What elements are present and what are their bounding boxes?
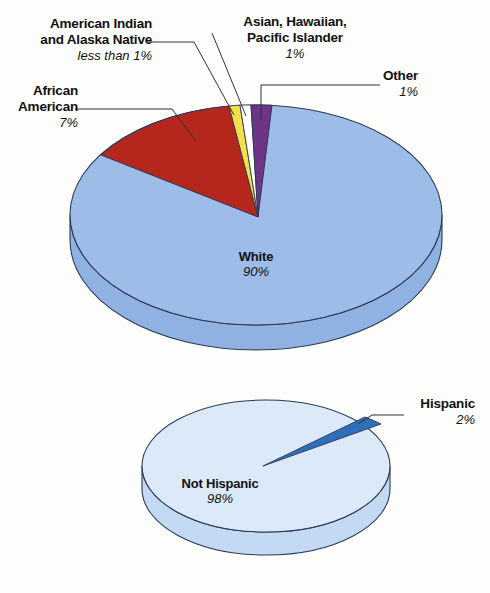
label-american-indian-line2: and Alaska Native [0,32,152,48]
label-asian-hawaiian-pacific-value: 1% [215,46,375,61]
label-american-indian: American Indian and Alaska Native less t… [0,16,152,63]
label-american-indian-line1: American Indian [0,16,152,32]
label-african-american-line1: African [0,83,78,99]
label-white-value: 90% [196,264,316,279]
label-african-american-line2: American [0,99,78,115]
label-hispanic: Hispanic 2% [330,396,475,427]
label-other: Other 1% [300,68,418,99]
label-not-hispanic: Not Hispanic 98% [156,476,284,507]
label-asian-hawaiian-pacific: Asian, Hawaiian, Pacific Islander 1% [215,14,375,61]
label-white: White 90% [196,249,316,280]
label-white-name: White [196,249,316,264]
label-asian-hawaiian-pacific-line1: Asian, Hawaiian, [215,14,375,30]
label-asian-hawaiian-pacific-line2: Pacific Islander [215,30,375,46]
pie-charts-figure: American Indian and Alaska Native less t… [0,0,490,593]
label-other-value: 1% [300,84,418,99]
label-hispanic-value: 2% [330,412,475,427]
label-american-indian-value: less than 1% [0,48,152,63]
label-other-name: Other [300,68,418,84]
label-african-american: African American 7% [0,83,78,130]
label-african-american-value: 7% [0,115,78,130]
label-not-hispanic-value: 98% [156,491,284,506]
label-hispanic-name: Hispanic [330,396,475,412]
label-not-hispanic-name: Not Hispanic [156,476,284,491]
